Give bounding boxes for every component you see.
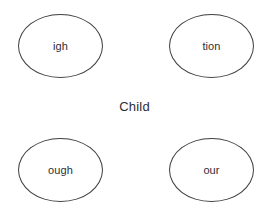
node-label-top-left: igh [53,41,68,52]
node-label-bottom-right: our [203,165,219,176]
node-ellipse-bottom-right[interactable]: our [169,138,254,202]
diagram-canvas: igh tion Child ough our [0,0,269,214]
node-ellipse-top-left[interactable]: igh [18,14,103,78]
node-ellipse-top-right[interactable]: tion [169,14,254,78]
center-word-label: Child [0,99,269,115]
node-label-top-right: tion [202,41,220,52]
node-ellipse-bottom-left[interactable]: ough [18,138,103,202]
node-label-bottom-left: ough [48,165,73,176]
